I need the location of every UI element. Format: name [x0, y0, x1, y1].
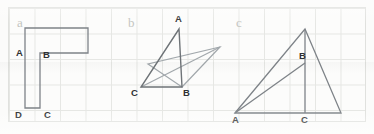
outer-triangle-c: [235, 29, 341, 113]
vertex-label-c-B: B: [299, 51, 306, 61]
figure-screenshot: a A B C D b A B C c A B C: [0, 0, 374, 134]
figure-c-drawing: [0, 0, 374, 134]
vertex-label-c-A: A: [232, 115, 239, 125]
vertex-label-c-C: C: [301, 115, 308, 125]
